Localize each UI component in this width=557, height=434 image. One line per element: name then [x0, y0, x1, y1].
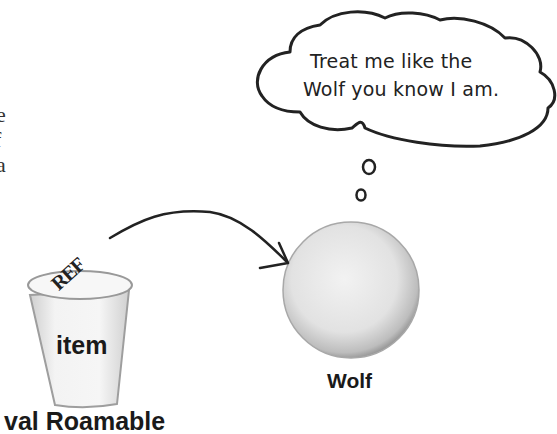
left-text-fragment-3: a	[0, 150, 6, 180]
reference-arrow	[110, 211, 288, 268]
diagram-canvas	[0, 0, 557, 434]
thought-text-line-1: Treat me like the	[310, 50, 472, 72]
thought-text-line-2: Wolf you know I am.	[303, 78, 499, 100]
variable-name-label: item	[56, 331, 107, 360]
object-type-label: Wolf	[327, 369, 372, 393]
declaration-label: val Roamable	[4, 407, 165, 434]
thought-dot-small	[357, 190, 366, 201]
thought-dot-large	[363, 160, 375, 174]
wolf-object-sphere	[283, 222, 419, 358]
